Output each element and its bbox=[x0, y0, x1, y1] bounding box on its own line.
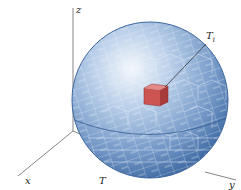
x-axis bbox=[18, 131, 73, 176]
sub-box-label-sub: i bbox=[213, 36, 215, 44]
sub-box-label: Ti bbox=[206, 31, 215, 44]
sub-box-label-main: T bbox=[206, 30, 213, 41]
z-axis-label: z bbox=[76, 5, 81, 15]
solid-label: T bbox=[99, 176, 106, 186]
highlighted-sub-box bbox=[144, 84, 168, 106]
x-axis-label: x bbox=[25, 176, 31, 186]
sphere-partition-diagram bbox=[0, 0, 241, 190]
y-axis-label: y bbox=[229, 180, 235, 190]
